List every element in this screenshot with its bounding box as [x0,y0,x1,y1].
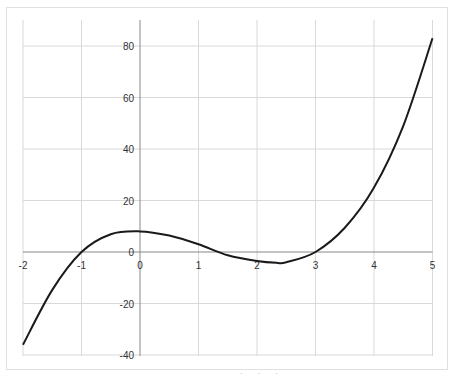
x-tick-label: 4 [371,260,377,271]
y-tick-label: 0 [128,247,134,258]
chart-border [7,8,448,370]
y-tick-label: -20 [120,299,135,310]
x-tick-label: 3 [313,260,319,271]
y-tick-label: 80 [123,41,135,52]
y-tick-label: 60 [123,93,135,104]
line-chart: -2-1012345 806040200-20-40 [0,0,457,377]
x-tick-label: 5 [430,260,436,271]
y-tick-label: 40 [123,144,135,155]
y-tick-label: 20 [123,196,135,207]
x-tick-label: -2 [19,260,28,271]
x-tick-label: 1 [196,260,202,271]
footer-partial-text: · · · [240,368,284,377]
y-tick-label: -40 [120,350,135,361]
x-tick-label: 0 [137,260,143,271]
x-tick-label: -1 [77,260,86,271]
